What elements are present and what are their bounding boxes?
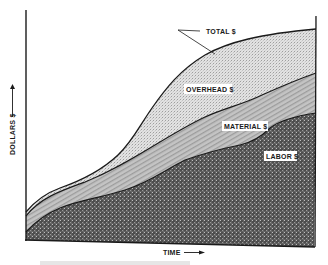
y-axis-arrow-icon [10, 84, 15, 89]
material-label: MATERIAL $ [224, 123, 267, 131]
total-label: TOTAL $ [206, 28, 236, 36]
x-axis-title: TIME [163, 249, 181, 256]
y-axis-title: DOLLARS $ [9, 114, 17, 155]
x-axis-arrow-icon [199, 251, 205, 255]
y-axis-title-group: DOLLARS $ [9, 84, 17, 155]
overhead-label: OVERHEAD $ [186, 86, 234, 94]
labor-label: LABOR $ [266, 153, 298, 161]
caption-remnant [40, 261, 190, 265]
x-axis-title-group: TIME [163, 249, 205, 256]
labor-label-group: LABOR $ [264, 151, 298, 161]
overhead-label-group: OVERHEAD $ [184, 84, 234, 94]
material-label-group: MATERIAL $ [222, 121, 268, 131]
stacked-area-chart: TOTAL $ OVERHEAD $ MATERIAL $ LABOR $ DO… [0, 0, 328, 265]
